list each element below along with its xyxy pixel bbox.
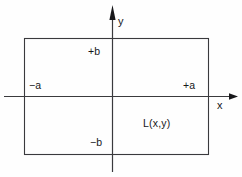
coordinate-diagram: y x +b −b −a +a L(x,y) [0, 0, 242, 177]
x-axis-arrowhead [229, 93, 238, 100]
y-axis-label: y [118, 16, 124, 27]
top-edge-label: +b [88, 46, 100, 57]
point-label: L(x,y) [143, 118, 170, 129]
x-axis-label: x [217, 100, 223, 111]
left-edge-label: −a [29, 80, 41, 91]
right-edge-label: +a [183, 80, 195, 91]
y-axis-arrowhead [109, 5, 115, 20]
bottom-edge-label: −b [90, 137, 102, 148]
